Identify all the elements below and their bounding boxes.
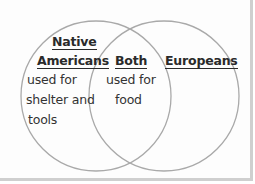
left-item-line1: used for <box>27 70 77 90</box>
left-heading-line1: Native <box>52 34 97 50</box>
left-item-line3: tools <box>28 110 57 130</box>
overlap-heading: Both <box>115 53 147 69</box>
overlap-item-line1: used for <box>106 70 156 90</box>
overlap-item-line2: food <box>115 90 142 110</box>
right-heading: Europeans <box>165 53 238 69</box>
left-item-line2: shelter and <box>26 90 95 110</box>
right-circle <box>89 21 239 171</box>
left-heading-line2: Americans <box>37 53 109 69</box>
